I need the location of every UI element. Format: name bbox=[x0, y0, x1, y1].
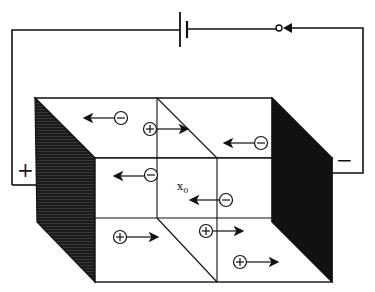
switch-icon[interactable] bbox=[276, 23, 292, 33]
diagram-canvas: + − x0 bbox=[0, 0, 375, 292]
battery-icon bbox=[180, 12, 187, 47]
circuit-diagram: + − x0 bbox=[0, 0, 375, 292]
negative-terminal-label: − bbox=[336, 148, 353, 172]
positive-terminal-label: + bbox=[17, 158, 34, 182]
